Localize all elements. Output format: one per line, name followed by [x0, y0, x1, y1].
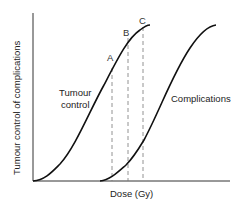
x-axis-label: Dose (Gy) — [110, 188, 153, 199]
chart: A B C Tumour control Complications Dose … — [0, 0, 243, 204]
point-label-a: A — [107, 52, 114, 63]
point-label-c: C — [139, 15, 146, 26]
tumour-control-label-line1: Tumour — [59, 87, 91, 98]
y-axis-label: Tumour control of complications — [11, 40, 22, 175]
point-label-b: B — [123, 27, 129, 38]
tumour-control-label-line2: control — [61, 99, 90, 110]
complications-label: Complications — [171, 93, 231, 104]
